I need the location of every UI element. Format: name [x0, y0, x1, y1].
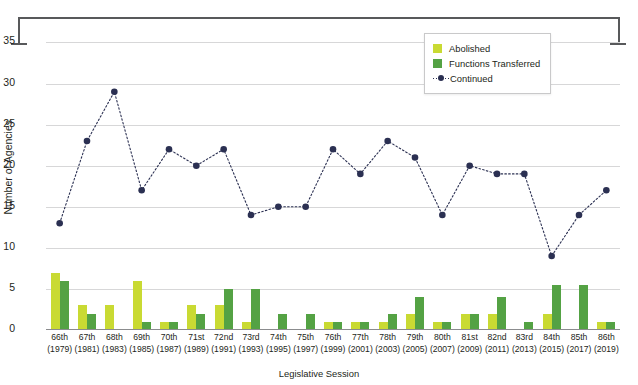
legend-item-abolished: Abolished — [433, 41, 542, 55]
x-tick-label: 71st(1989) — [184, 332, 209, 355]
x-tick-year: (2017) — [567, 344, 592, 356]
legend-label-abolished: Abolished — [449, 43, 490, 54]
legend-item-continued: Continued — [433, 71, 542, 85]
x-tick-year: (1999) — [321, 344, 346, 356]
x-tick-session: 80th — [430, 332, 455, 344]
legend-label-continued: Continued — [450, 73, 493, 84]
x-tick-label: 85th(2017) — [567, 332, 592, 355]
x-tick-label: 78th(2003) — [375, 332, 400, 355]
x-tick-session: 74th — [266, 332, 291, 344]
legend-item-functions-transferred: Functions Transferred — [433, 56, 542, 70]
bar-transferred — [579, 285, 588, 330]
x-tick-session: 78th — [375, 332, 400, 344]
figure-frame-top-rule — [18, 17, 620, 19]
legend-swatch-icon-functions-transferred — [433, 59, 442, 68]
x-tick-year: (2015) — [539, 344, 564, 356]
bar-group — [319, 26, 346, 330]
x-tick-label: 73rd(1993) — [239, 332, 264, 355]
x-tick-year: (2013) — [512, 344, 537, 356]
x-tick-label: 80th(2007) — [430, 332, 455, 355]
x-tick-session: 79th — [403, 332, 428, 344]
x-tick-session: 77th — [348, 332, 373, 344]
x-axis-baseline — [46, 329, 620, 331]
legend-dotted-line-icon-continued — [433, 74, 449, 83]
bar-transferred — [497, 297, 506, 330]
x-tick-session: 72nd — [211, 332, 236, 344]
bar-group — [210, 26, 237, 330]
bar-group — [183, 26, 210, 330]
x-tick-year: (1993) — [239, 344, 264, 356]
legend-label-functions-transferred: Functions Transferred — [449, 58, 540, 69]
x-tick-year: (1991) — [211, 344, 236, 356]
x-tick-session: 81st — [457, 332, 482, 344]
x-tick-label: 70th(1987) — [157, 332, 182, 355]
x-tick-year: (1981) — [75, 344, 100, 356]
x-tick-session: 73rd — [239, 332, 264, 344]
chart-legend: Abolished Functions Transferred Continue… — [424, 33, 551, 94]
x-tick-year: (1995) — [266, 344, 291, 356]
x-tick-session: 82nd — [485, 332, 509, 344]
x-tick-year: (1989) — [184, 344, 209, 356]
x-tick-label: 67th(1981) — [75, 332, 100, 355]
bar-abolished — [215, 305, 224, 330]
x-tick-label: 74th(1995) — [266, 332, 291, 355]
x-tick-label: 84th(2015) — [539, 332, 564, 355]
x-tick-session: 68th — [102, 332, 127, 344]
bar-abolished — [78, 305, 87, 330]
x-tick-year: (1979) — [47, 344, 72, 356]
bar-transferred — [60, 281, 69, 330]
chart-figure: Number of Agencies 05101520253035 66th(1… — [0, 0, 638, 385]
x-tick-year: (1985) — [129, 344, 154, 356]
bar-group — [593, 26, 620, 330]
bar-group — [374, 26, 401, 330]
bar-abolished — [105, 305, 114, 330]
figure-bracket-left — [18, 17, 20, 45]
bar-group — [265, 26, 292, 330]
x-tick-label: 69th(1985) — [129, 332, 154, 355]
x-tick-year: (2019) — [594, 344, 619, 356]
x-axis-title: Legislative Session — [0, 368, 638, 379]
x-tick-label: 81st(2009) — [457, 332, 482, 355]
bar-group — [101, 26, 128, 330]
x-tick-session: 70th — [157, 332, 182, 344]
x-tick-label: 77th(2001) — [348, 332, 373, 355]
bar-abolished — [51, 273, 60, 331]
x-tick-session: 76th — [321, 332, 346, 344]
x-tick-label: 79th(2005) — [403, 332, 428, 355]
x-tick-year: (1983) — [102, 344, 127, 356]
x-tick-label: 72nd(1991) — [211, 332, 236, 355]
x-tick-session: 83rd — [512, 332, 537, 344]
bar-transferred — [224, 289, 233, 330]
bar-group — [237, 26, 264, 330]
legend-swatch-icon-abolished — [433, 44, 442, 53]
x-tick-label: 76th(1999) — [321, 332, 346, 355]
x-tick-session: 67th — [75, 332, 100, 344]
x-tick-session: 69th — [129, 332, 154, 344]
x-tick-year: (2011) — [485, 344, 509, 356]
x-axis-tick-labels: 66th(1979)67th(1981)68th(1983)69th(1985)… — [46, 332, 620, 366]
x-tick-label: 82nd(2011) — [485, 332, 509, 355]
x-tick-label: 66th(1979) — [47, 332, 72, 355]
x-tick-label: 68th(1983) — [102, 332, 127, 355]
bar-group — [155, 26, 182, 330]
x-tick-year: (2007) — [430, 344, 455, 356]
x-tick-year: (1997) — [293, 344, 318, 356]
x-tick-year: (2001) — [348, 344, 373, 356]
x-tick-label: 86th(2019) — [594, 332, 619, 355]
bar-group — [73, 26, 100, 330]
bar-group — [128, 26, 155, 330]
bar-abolished — [133, 281, 142, 330]
bar-transferred — [415, 297, 424, 330]
x-tick-year: (1987) — [157, 344, 182, 356]
bar-transferred — [552, 285, 561, 330]
x-tick-session: 66th — [47, 332, 72, 344]
bar-group — [565, 26, 592, 330]
x-tick-year: (2003) — [375, 344, 400, 356]
bar-group — [292, 26, 319, 330]
x-tick-session: 71st — [184, 332, 209, 344]
bar-abolished — [187, 305, 196, 330]
x-tick-label: 75th(1997) — [293, 332, 318, 355]
x-tick-session: 86th — [594, 332, 619, 344]
bar-transferred — [251, 289, 260, 330]
legend-dot-icon — [438, 75, 444, 81]
